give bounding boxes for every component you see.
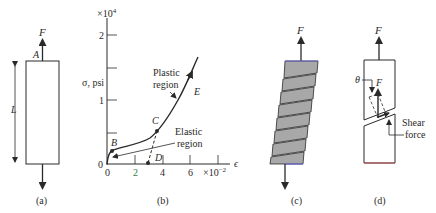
dashed-normal-2 bbox=[378, 94, 386, 114]
arrow-on-curve-e bbox=[188, 72, 192, 80]
force-label: F bbox=[296, 24, 304, 36]
plastic-region-label-2: region bbox=[153, 79, 179, 90]
x-tick-label-0: 0 bbox=[105, 167, 110, 178]
caption-b: (b) bbox=[157, 195, 169, 207]
plastic-region-label-1: Plastic bbox=[153, 67, 180, 78]
y-tick-label-2: 2 bbox=[99, 30, 104, 41]
point-a-label: A bbox=[32, 49, 40, 60]
y-tick-label-0: 0 bbox=[98, 159, 103, 170]
shear-label-1: Shear bbox=[402, 117, 425, 128]
force-label-top: F bbox=[374, 24, 382, 36]
point-c bbox=[155, 129, 159, 133]
force-label: F bbox=[38, 26, 46, 38]
x-tick-label-2: 2 bbox=[133, 167, 138, 178]
label-b: B bbox=[111, 137, 117, 148]
caption-c: (c) bbox=[291, 195, 302, 207]
length-label: L bbox=[10, 104, 17, 115]
panel-c: F (c) bbox=[270, 24, 318, 207]
caption-d: (d) bbox=[374, 195, 386, 207]
upper-block bbox=[364, 60, 395, 120]
slip-slabs bbox=[270, 61, 318, 164]
x-multiplier: ×10−2 bbox=[203, 166, 227, 178]
panel-b-chart: ×104 2 1 0 σ, psi 0 2 4 6 ×10−2 ϵ B C D … bbox=[82, 7, 239, 207]
y-multiplier: ×104 bbox=[97, 7, 117, 19]
force-label-inner: F bbox=[375, 77, 383, 88]
x-tick-label-6: 6 bbox=[188, 167, 193, 178]
y-tick-label-1: 1 bbox=[99, 95, 104, 106]
shear-label-2: force bbox=[405, 129, 426, 140]
elastic-region-label-1: Elastic bbox=[175, 126, 203, 137]
upper-slip-plane bbox=[364, 108, 395, 120]
angle-label: θ bbox=[355, 74, 360, 85]
x-axis-label: ϵ bbox=[234, 158, 239, 169]
point-d bbox=[146, 161, 150, 165]
panel-a: F A L (a) bbox=[10, 26, 59, 207]
lower-block bbox=[364, 114, 395, 163]
dashed-top bbox=[369, 94, 378, 97]
elastic-region-pointer bbox=[113, 143, 175, 157]
caption-a: (a) bbox=[36, 195, 47, 207]
panel-d: F F θ Shear force (d) bbox=[355, 24, 426, 207]
bar-specimen bbox=[26, 61, 59, 164]
y-axis-label: σ, psi bbox=[82, 77, 104, 88]
point-b bbox=[110, 149, 114, 153]
x-tick-label-4: 4 bbox=[160, 167, 165, 178]
label-d: D bbox=[154, 152, 163, 163]
plastic-region-pointer bbox=[170, 92, 176, 98]
label-e: E bbox=[193, 86, 200, 97]
figure-canvas: F A L (a) ×104 2 1 0 σ, psi 0 2 4 6 ×10−… bbox=[0, 0, 436, 213]
elastic-region-label-2: region bbox=[177, 138, 203, 149]
label-c: C bbox=[152, 115, 159, 126]
